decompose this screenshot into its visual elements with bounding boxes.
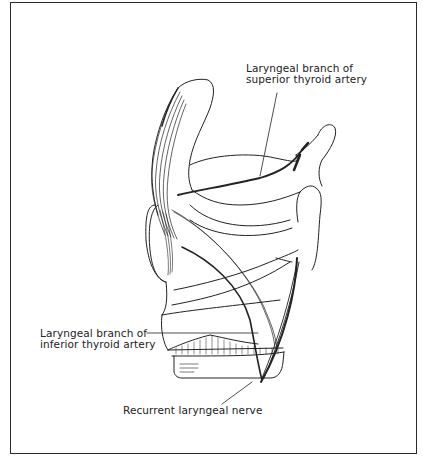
aryepiglottic-muscle [152, 88, 186, 239]
leader-superior [260, 93, 277, 176]
label-superior-thyroid-artery: Laryngeal branch of superior thyroid art… [246, 63, 367, 85]
label-inferior-line2: inferior thyroid artery [40, 339, 156, 350]
label-superior-line2: superior thyroid artery [246, 74, 367, 85]
label-inferior-thyroid-artery: Laryngeal branch of inferior thyroid art… [40, 328, 156, 350]
laryngeal-inlet [190, 155, 300, 236]
label-recurrent-laryngeal-nerve: Recurrent laryngeal nerve [123, 405, 262, 416]
leader-nerve [222, 382, 252, 404]
inferior-thyroid-artery-branch [182, 247, 262, 380]
arytenoid-right [296, 125, 336, 186]
superior-thyroid-artery-branch [178, 143, 308, 195]
